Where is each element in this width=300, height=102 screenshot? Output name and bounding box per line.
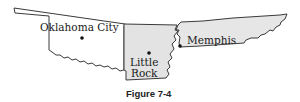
figure-caption: Figure 7-4	[126, 88, 172, 99]
city-label-memphis: Memphis	[187, 34, 236, 46]
city-dot-memphis	[178, 44, 182, 48]
state-oklahoma	[14, 8, 125, 71]
city-dot-little-rock	[147, 51, 151, 55]
map-figure: Oklahoma City Little Rock Memphis Figure…	[0, 0, 300, 102]
city-dot-oklahoma-city	[80, 36, 84, 40]
city-label-oklahoma-city: Oklahoma City	[40, 21, 119, 33]
city-label-little-rock-line2: Rock	[131, 67, 158, 79]
